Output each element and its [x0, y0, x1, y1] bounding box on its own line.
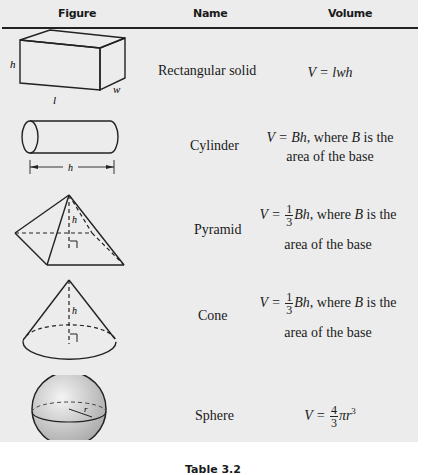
volume-pyramid: V = 13Bh, where B is the area of the bas…: [238, 200, 418, 260]
volume-cylinder: V = Bh, where B is the area of the base: [240, 128, 420, 166]
label-h: h: [72, 214, 77, 225]
name-sphere: Sphere: [195, 408, 234, 424]
volume-rectangular-solid: V = lwh: [240, 63, 420, 82]
label-h: h: [72, 305, 77, 316]
header-volume: Volume: [328, 7, 372, 20]
cylinder-figure: h: [0, 112, 140, 182]
volume-cone: V = 13Bh, where B is the area of the bas…: [238, 288, 418, 348]
table-caption: Table 3.2: [185, 463, 241, 475]
volume-sphere: V = 43πr3: [240, 402, 420, 429]
label-r: r: [84, 404, 88, 414]
label-h: h: [68, 162, 73, 173]
table-header: Figure Name Volume: [0, 0, 418, 27]
fraction: 43: [330, 404, 338, 429]
label-w: w: [113, 83, 121, 95]
sphere-figure: r: [0, 375, 140, 440]
name-cone: Cone: [198, 308, 228, 324]
label-h: h: [10, 58, 16, 70]
name-pyramid: Pyramid: [194, 222, 241, 238]
fraction: 13: [285, 291, 293, 316]
header-name: Name: [193, 7, 227, 20]
label-l: l: [53, 94, 56, 106]
name-cylinder: Cylinder: [190, 138, 239, 154]
fraction: 13: [285, 203, 293, 228]
pyramid-figure: h: [0, 185, 140, 270]
rectangular-solid-figure: h l w: [0, 28, 140, 108]
header-figure: Figure: [58, 7, 96, 20]
cone-figure: h: [0, 272, 140, 362]
